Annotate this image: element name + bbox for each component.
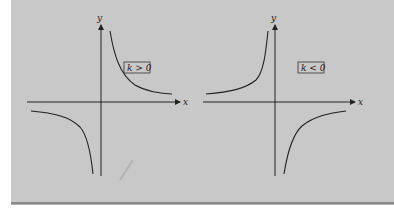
hyperbola-branch-q4 — [284, 111, 346, 174]
pencil-mark — [120, 160, 133, 180]
graph-k-positive: x y k > 0 — [27, 13, 188, 176]
x-axis-label: x — [183, 97, 188, 107]
graph-k-negative: x y k < 0 — [203, 13, 363, 176]
hyperbola-diagram: x y k > 0 x y k < 0 — [0, 0, 394, 216]
hyperbola-branch-q3 — [31, 111, 93, 174]
condition-label: k < 0 — [301, 63, 326, 73]
y-axis-label: y — [270, 13, 277, 23]
x-axis-label: x — [358, 97, 363, 107]
y-axis-label: y — [96, 13, 103, 23]
hyperbola-branch-q2 — [206, 31, 268, 94]
condition-label: k > 0 — [127, 63, 152, 73]
